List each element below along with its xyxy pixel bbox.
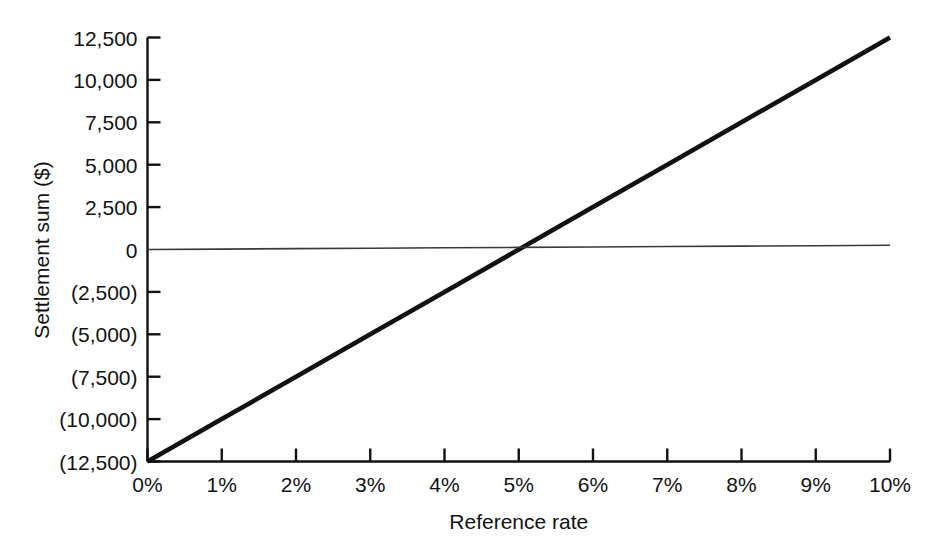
y-tick-label: (2,500) xyxy=(71,281,138,302)
x-tick-label: 2% xyxy=(281,474,311,495)
x-tick-label: 5% xyxy=(504,474,534,495)
y-tick-label: 10,000 xyxy=(73,69,137,90)
x-tick-label: 10% xyxy=(869,474,911,495)
y-tick-label: (5,000) xyxy=(71,324,138,345)
chart-figure: 12,50010,0007,5005,0002,5000(2,500)(5,00… xyxy=(0,0,946,546)
y-tick-label: 5,000 xyxy=(85,154,138,175)
y-tick-label: (7,500) xyxy=(71,366,138,387)
x-tick-label: 3% xyxy=(355,474,385,495)
y-tick-label: 2,500 xyxy=(85,197,138,218)
x-tick-label: 6% xyxy=(578,474,608,495)
y-tick-label: (12,500) xyxy=(59,451,137,472)
y-axis-title: Settlement sum ($) xyxy=(30,161,54,338)
y-tick-label: 0 xyxy=(126,239,138,260)
x-tick-label: 4% xyxy=(429,474,459,495)
x-tick-label: 0% xyxy=(132,474,162,495)
y-tick-label: 12,500 xyxy=(73,27,137,48)
x-tick-label: 9% xyxy=(801,474,831,495)
x-axis-title: Reference rate xyxy=(449,510,588,534)
plot-area xyxy=(0,0,946,546)
data-series-layer xyxy=(148,38,891,462)
y-tick-label: (10,000) xyxy=(59,409,137,430)
y-tick-label: 7,500 xyxy=(85,112,138,133)
x-tick-label: 8% xyxy=(726,474,756,495)
x-tick-label: 1% xyxy=(207,474,237,495)
x-tick-label: 7% xyxy=(652,474,682,495)
